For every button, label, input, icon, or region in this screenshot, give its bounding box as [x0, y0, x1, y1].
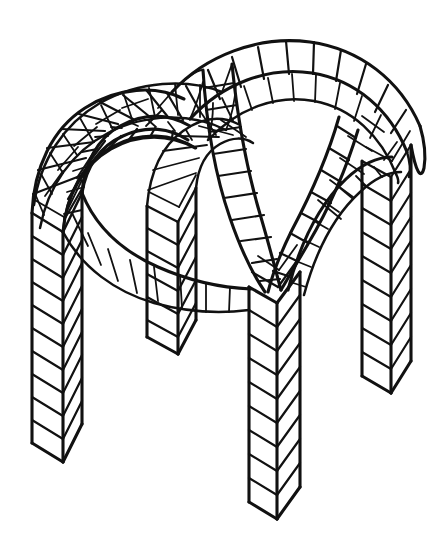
vault-illustration: Gothic Rib Vault on Four Piers quadripar… — [0, 0, 442, 547]
vault-diagram — [0, 0, 442, 547]
